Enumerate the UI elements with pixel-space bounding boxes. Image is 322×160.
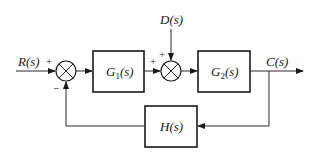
sum2-plus-sign-disturbance: + — [159, 48, 165, 60]
output-signal-label: C(s) — [266, 54, 288, 69]
svg-text:G1(s): G1(s) — [106, 64, 134, 81]
block-diagram: R(s) + − G1(s) + D(s) + G2(s) C(s) — [0, 0, 322, 160]
g2-block: G2(s) — [198, 51, 250, 92]
summing-junction-2 — [161, 61, 181, 81]
sum1-minus-sign: − — [53, 82, 59, 94]
g1-block: G1(s) — [93, 51, 144, 92]
sum2-plus-sign-forward: + — [150, 55, 156, 67]
svg-text:G2(s): G2(s) — [211, 64, 239, 81]
summing-junction-1 — [56, 61, 76, 81]
disturbance-label: D(s) — [159, 12, 183, 27]
h-label: H(s) — [159, 119, 183, 134]
h-block: H(s) — [145, 106, 197, 147]
sum1-plus-sign: + — [46, 55, 52, 67]
input-signal-label: R(s) — [17, 54, 40, 69]
